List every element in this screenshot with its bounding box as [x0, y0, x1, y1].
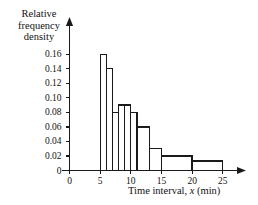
x-tick-label: 25	[213, 176, 233, 186]
histogram-bar	[192, 161, 223, 170]
histogram-bar	[112, 112, 118, 170]
x-axis-label-pre: Time interval,	[128, 185, 190, 196]
x-axis-label: Time interval, x (min)	[128, 185, 220, 197]
x-tick-label: 10	[121, 176, 141, 186]
x-tick-label: 20	[182, 176, 202, 186]
x-tick-label: 5	[90, 176, 110, 186]
y-tick-label: 0.04	[22, 136, 62, 146]
x-axis-label-post: (min)	[194, 185, 220, 196]
histogram-bar	[100, 54, 106, 170]
x-tick-label: 15	[151, 176, 171, 186]
y-tick-label: 0.08	[22, 107, 62, 117]
y-tick-label: 0.14	[22, 64, 62, 74]
y-axis-label: Relative frequency density	[8, 8, 70, 43]
histogram-bar	[125, 105, 131, 170]
y-axis-label-line-1: Relative	[8, 8, 70, 20]
y-tick-label: 0.06	[22, 122, 62, 132]
y-tick-label: 0.02	[22, 151, 62, 161]
x-axis-arrowhead	[237, 167, 246, 174]
histogram-bar	[161, 156, 192, 171]
histogram-bar	[119, 105, 125, 170]
x-tick-label: 0	[60, 176, 80, 186]
histogram-bar	[106, 69, 112, 171]
y-tick-label: 0	[22, 166, 62, 176]
histogram-bar	[137, 127, 149, 171]
histogram-bar	[149, 149, 161, 171]
y-tick-label: 0.12	[22, 78, 62, 88]
bars-group	[100, 54, 223, 170]
histogram-bar	[131, 112, 137, 170]
y-tick-label: 0.10	[22, 93, 62, 103]
y-axis-label-line-3: density	[8, 31, 70, 43]
histogram-figure: Relative frequency density Time interval…	[0, 0, 258, 205]
y-axis-label-line-2: frequency	[8, 20, 70, 32]
y-tick-label: 0.16	[22, 49, 62, 59]
